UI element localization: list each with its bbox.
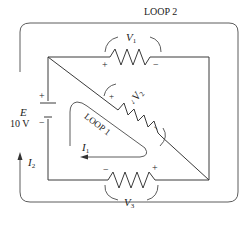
v3-subscript: 3 (131, 202, 135, 210)
v1-bracket (105, 37, 118, 52)
resistor-r3 (108, 172, 155, 188)
battery-plus: + (39, 91, 45, 101)
battery-minus: − (39, 118, 45, 128)
i1-label: I1 (82, 142, 89, 155)
v3-symbol: V (124, 196, 131, 208)
loop2-label: LOOP 2 (144, 7, 177, 17)
circuit-diagram: LOOP 2 V1 + − V2 ↓ + − V3 − + + − E 10 V… (0, 0, 246, 225)
v1-label: V1 (126, 32, 136, 45)
source-value: 10 V (10, 119, 30, 129)
v3-bracket (105, 185, 118, 200)
loop2-arrow-icon (18, 152, 23, 160)
v2-plus: + (109, 92, 114, 101)
i2-subscript: 2 (32, 162, 36, 170)
loop2-path (20, 23, 238, 202)
loop1-arrow-icon (80, 155, 88, 160)
resistor-r1 (110, 49, 155, 65)
v1-minus: − (153, 60, 159, 70)
i2-label: I2 (28, 157, 35, 170)
v3-plus: + (152, 163, 158, 173)
v1-subscript: 1 (133, 37, 137, 45)
i1-subscript: 1 (86, 147, 90, 155)
circuit-drawing (0, 0, 246, 225)
v3-label: V3 (124, 197, 134, 210)
source-symbol: E (20, 107, 27, 118)
v3-minus: − (103, 165, 109, 175)
v1-plus: + (102, 60, 108, 70)
v1-symbol: V (126, 31, 133, 43)
